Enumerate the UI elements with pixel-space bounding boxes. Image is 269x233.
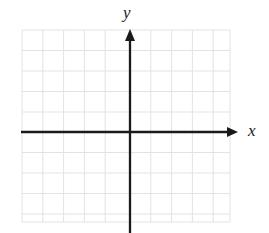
y-axis-arrowhead [125, 29, 135, 41]
y-axis-label: y [123, 4, 131, 21]
grid-lines-horizontal [22, 30, 230, 222]
graph-canvas [0, 0, 269, 233]
x-axis-label: x [248, 122, 256, 139]
x-axis-arrowhead [227, 127, 238, 137]
coordinate-plane-figure: y x [0, 0, 269, 233]
